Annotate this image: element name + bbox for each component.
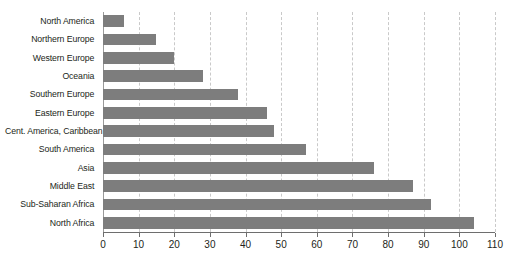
- bar-row: [103, 67, 495, 85]
- x-tick-label: 60: [311, 239, 322, 250]
- x-tick: [388, 233, 389, 237]
- x-tick: [139, 233, 140, 237]
- category-label: Asia: [5, 159, 99, 177]
- category-label: Sub-Saharan Africa: [5, 195, 99, 213]
- x-tick-label: 0: [100, 239, 106, 250]
- bar-row: [103, 214, 495, 232]
- x-tick-label: 90: [418, 239, 429, 250]
- bar-row: [103, 177, 495, 195]
- bar: [103, 15, 124, 27]
- x-tick: [459, 233, 460, 237]
- x-tick: [246, 233, 247, 237]
- category-label: North America: [5, 12, 99, 30]
- category-label: Southern Europe: [5, 85, 99, 103]
- category-label: South America: [5, 140, 99, 158]
- x-tick: [495, 233, 496, 237]
- x-tick: [174, 233, 175, 237]
- bar-row: [103, 159, 495, 177]
- category-label: Northern Europe: [5, 30, 99, 48]
- bar: [103, 52, 174, 64]
- bar: [103, 107, 267, 119]
- x-tick-label: 50: [276, 239, 287, 250]
- x-tick: [281, 233, 282, 237]
- bar-chart: North AmericaNorthern EuropeWestern Euro…: [0, 0, 511, 268]
- x-tick-label: 100: [451, 239, 468, 250]
- bar-row: [103, 30, 495, 48]
- bar: [103, 144, 306, 156]
- x-axis-ticks: [103, 233, 495, 238]
- bar-row: [103, 195, 495, 213]
- bar-series: [103, 12, 495, 232]
- category-label: Middle East: [5, 177, 99, 195]
- bar: [103, 34, 156, 46]
- bar: [103, 89, 238, 101]
- bar: [103, 162, 374, 174]
- bar: [103, 180, 413, 192]
- x-tick: [210, 233, 211, 237]
- category-label: Cent. America, Caribbean: [5, 122, 99, 140]
- category-label: Oceania: [5, 67, 99, 85]
- x-tick-label: 20: [169, 239, 180, 250]
- x-tick-label: 70: [347, 239, 358, 250]
- category-axis-labels: North AmericaNorthern EuropeWestern Euro…: [0, 12, 99, 232]
- bar: [103, 70, 203, 82]
- bar: [103, 125, 274, 137]
- plot-area: [103, 12, 495, 232]
- bar: [103, 217, 474, 229]
- bar-row: [103, 140, 495, 158]
- category-label: North Africa: [5, 214, 99, 232]
- bar-row: [103, 122, 495, 140]
- bar-row: [103, 85, 495, 103]
- x-tick-label: 10: [133, 239, 144, 250]
- x-tick-label: 80: [383, 239, 394, 250]
- category-label: Eastern Europe: [5, 104, 99, 122]
- x-tick: [317, 233, 318, 237]
- x-tick-label: 110: [487, 239, 503, 250]
- bar-row: [103, 12, 495, 30]
- x-tick: [424, 233, 425, 237]
- x-tick-label: 30: [204, 239, 215, 250]
- x-tick-label: 40: [240, 239, 251, 250]
- gridline: [495, 12, 496, 232]
- bar-row: [103, 104, 495, 122]
- x-tick: [103, 233, 104, 237]
- x-axis-tick-labels: 0102030405060708090100110: [103, 239, 495, 255]
- x-tick: [352, 233, 353, 237]
- category-label: Western Europe: [5, 49, 99, 67]
- bar: [103, 199, 431, 211]
- bar-row: [103, 49, 495, 67]
